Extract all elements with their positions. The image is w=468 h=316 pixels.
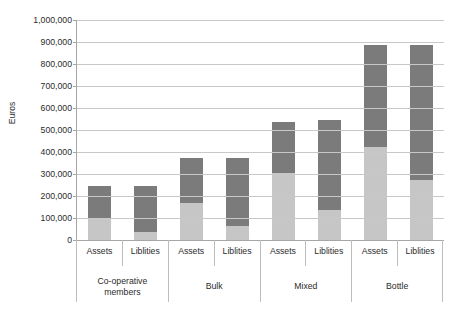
gridline [77, 174, 444, 175]
group-label-bulk: Bulk [168, 266, 260, 302]
gridline [77, 108, 444, 109]
gridline [77, 152, 444, 153]
category-label-text: Assets [178, 246, 204, 257]
bar-segment-upper [410, 45, 433, 180]
y-axis-tickmark [73, 108, 77, 109]
bar-segment-lower [318, 210, 341, 240]
bar-segment-lower [364, 147, 387, 240]
category-axis-level-1: AssetsLiblitiesAssetsLiblitiesAssetsLibl… [76, 240, 444, 266]
category-label-text: Liblities [314, 246, 343, 257]
category-label-text: Liblities [131, 246, 160, 257]
y-axis-tick-label: 1,000,000 [18, 16, 72, 25]
bar-co-operative-members-liblities [134, 186, 157, 240]
y-axis-tick-label: 500,000 [18, 126, 72, 135]
y-axis-tick-label: 900,000 [18, 38, 72, 47]
category-axis-level-2: Co-operativemembersBulkMixedBottle [76, 266, 444, 302]
gridline [77, 218, 444, 219]
bar-bottle-liblities [410, 45, 433, 240]
category-label-text: Assets [270, 246, 296, 257]
y-axis-tick-label: 0 [18, 236, 72, 245]
y-axis-tickmark [73, 130, 77, 131]
y-axis-tick-label: 700,000 [18, 82, 72, 91]
category-axis: AssetsLiblitiesAssetsLiblitiesAssetsLibl… [76, 240, 444, 302]
group-label-text: Bottle [386, 281, 408, 292]
group-label-co-operative-members: Co-operativemembers [76, 266, 168, 302]
category-label-liblities: Liblities [305, 240, 351, 266]
bar-segment-lower [226, 226, 249, 240]
category-label-text: Assets [86, 246, 112, 257]
category-label-text: Liblities [223, 246, 252, 257]
bar-segment-upper [134, 186, 157, 232]
bar-segment-lower [88, 218, 111, 240]
bar-segment-lower [410, 180, 433, 240]
y-axis-tickmark [73, 174, 77, 175]
y-axis-tickmark [73, 64, 77, 65]
y-axis-tick-label: 400,000 [18, 148, 72, 157]
gridline [77, 20, 444, 21]
group-label-text-line2: members [104, 287, 140, 298]
bar-segment-upper [226, 158, 249, 226]
group-label-bottle: Bottle [351, 266, 443, 302]
category-label-text: Liblities [406, 246, 435, 257]
y-axis-title: Euros [7, 83, 17, 143]
y-axis-tickmark [73, 218, 77, 219]
bar-segment-lower [272, 173, 295, 240]
bar-bottle-assets [364, 45, 387, 240]
group-label-mixed: Mixed [260, 266, 352, 302]
bar-segment-upper [88, 186, 111, 218]
bar-segment-lower [180, 203, 203, 240]
gridline [77, 196, 444, 197]
y-axis-tick-label: 100,000 [18, 214, 72, 223]
bar-segment-upper [364, 45, 387, 147]
category-label-assets: Assets [260, 240, 306, 266]
category-label-liblities: Liblities [122, 240, 168, 266]
bar-mixed-liblities [318, 120, 341, 240]
bar-co-operative-members-assets [88, 186, 111, 240]
gridline [77, 64, 444, 65]
bar-mixed-assets [272, 122, 295, 240]
y-axis-tick-label: 300,000 [18, 170, 72, 179]
y-axis-tickmark [73, 152, 77, 153]
y-axis-tick-label: 600,000 [18, 104, 72, 113]
bar-bulk-liblities [226, 158, 249, 240]
category-label-assets: Assets [76, 240, 122, 266]
y-axis-tickmark [73, 42, 77, 43]
y-axis-tick-label: 800,000 [18, 60, 72, 69]
category-label-text: Assets [362, 246, 388, 257]
group-label-text: Mixed [294, 281, 317, 292]
plot-area [76, 20, 444, 240]
bar-bulk-assets [180, 158, 203, 240]
category-label-assets: Assets [351, 240, 397, 266]
y-axis-tickmark [73, 86, 77, 87]
gridline [77, 86, 444, 87]
y-axis-tick-labels: 1,000,000900,000800,000700,000600,000500… [18, 20, 72, 240]
category-label-assets: Assets [168, 240, 214, 266]
y-axis-tickmark [73, 20, 77, 21]
group-label-text: Co-operative [98, 276, 148, 287]
y-axis-tickmark [73, 196, 77, 197]
group-label-text: Bulk [206, 281, 223, 292]
bar-chart: Euros 1,000,000900,000800,000700,000600,… [0, 0, 468, 316]
bar-segment-lower [134, 232, 157, 240]
category-label-liblities: Liblities [397, 240, 443, 266]
gridline [77, 130, 444, 131]
y-axis-tick-label: 200,000 [18, 192, 72, 201]
gridline [77, 42, 444, 43]
category-label-liblities: Liblities [214, 240, 260, 266]
